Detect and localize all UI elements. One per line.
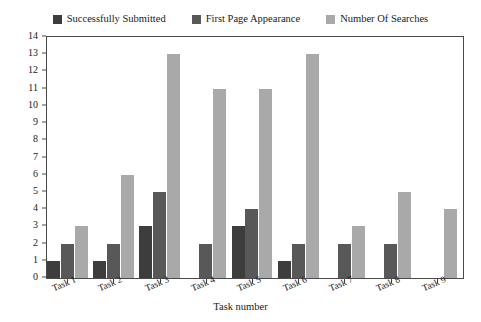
y-tick-label: 7: [33, 152, 38, 162]
y-tick-mark: [42, 277, 46, 278]
x-tick-label: Task 4: [190, 275, 217, 293]
bar: [444, 209, 457, 278]
y-tick-label: 8: [33, 134, 38, 144]
bar: [199, 244, 212, 278]
bar: [167, 54, 180, 278]
y-tick-mark: [42, 225, 46, 226]
y-tick-label: 2: [33, 238, 38, 248]
x-tick-label: Task 6: [282, 275, 309, 293]
y-tick-label: 0: [33, 272, 38, 282]
bar: [47, 261, 60, 278]
y-tick-label: 6: [33, 169, 38, 179]
bar-group: [186, 37, 232, 278]
x-tick-label: Task 3: [144, 275, 171, 293]
y-tick-mark: [42, 122, 46, 123]
y-tick-mark: [42, 190, 46, 191]
bar: [75, 226, 88, 278]
y-tick-label: 5: [33, 186, 38, 196]
bar: [93, 261, 106, 278]
legend-label: First Page Appearance: [206, 14, 300, 25]
chart-page: Successfully SubmittedFirst Page Appeara…: [0, 0, 481, 322]
bar: [139, 226, 152, 278]
x-tick-label: Task 8: [375, 275, 402, 293]
x-tick-label: Task 1: [51, 275, 78, 293]
y-tick-label: 13: [28, 48, 38, 58]
bar-group: [139, 37, 185, 278]
y-tick-mark: [42, 53, 46, 54]
x-tick-label: Task 2: [97, 275, 124, 293]
y-tick-mark: [42, 208, 46, 209]
bar: [306, 54, 319, 278]
bar: [259, 89, 272, 278]
x-axis-title: Task number: [0, 301, 481, 312]
legend-swatch-icon: [326, 15, 335, 24]
bars-layer: [47, 37, 463, 278]
bar: [398, 192, 411, 278]
bar: [61, 244, 74, 278]
bar: [121, 175, 134, 278]
legend-entry: First Page Appearance: [192, 14, 300, 25]
y-axis: 01234567891011121314: [0, 36, 46, 279]
bar-group: [371, 37, 417, 278]
legend-swatch-icon: [192, 15, 201, 24]
bar: [232, 226, 245, 278]
bar-group: [278, 37, 324, 278]
y-tick-mark: [42, 70, 46, 71]
y-tick-label: 14: [28, 31, 38, 41]
y-tick-label: 4: [33, 203, 38, 213]
y-tick-label: 1: [33, 255, 38, 265]
x-tick-label: Task 7: [328, 275, 355, 293]
y-tick-label: 3: [33, 220, 38, 230]
y-tick-label: 9: [33, 117, 38, 127]
bar: [153, 192, 166, 278]
y-axis-title: Count: [0, 132, 1, 158]
legend-entry: Successfully Submitted: [53, 14, 166, 25]
bar-group: [93, 37, 139, 278]
y-tick-mark: [42, 104, 46, 105]
y-tick-mark: [42, 139, 46, 140]
bar: [107, 244, 120, 278]
y-tick-label: 12: [28, 65, 38, 75]
y-tick-label: 11: [28, 83, 38, 93]
bar-group: [417, 37, 463, 278]
y-tick-mark: [42, 87, 46, 88]
y-tick-mark: [42, 36, 46, 37]
bar: [278, 261, 291, 278]
bar: [245, 209, 258, 278]
y-tick-label: 10: [28, 100, 38, 110]
y-tick-mark: [42, 259, 46, 260]
x-tick-label: Task 9: [421, 275, 448, 293]
bar-group: [232, 37, 278, 278]
chart-legend: Successfully SubmittedFirst Page Appeara…: [0, 14, 481, 25]
bar: [338, 244, 351, 278]
bar: [292, 244, 305, 278]
legend-entry: Number Of Searches: [326, 14, 428, 25]
x-tick-label: Task 5: [236, 275, 263, 293]
legend-label: Successfully Submitted: [67, 14, 166, 25]
bar: [352, 226, 365, 278]
bar-group: [324, 37, 370, 278]
y-tick-mark: [42, 173, 46, 174]
legend-label: Number Of Searches: [340, 14, 428, 25]
y-tick-mark: [42, 156, 46, 157]
bar: [213, 89, 226, 278]
legend-swatch-icon: [53, 15, 62, 24]
y-tick-mark: [42, 242, 46, 243]
bar: [384, 244, 397, 278]
bar-group: [47, 37, 93, 278]
